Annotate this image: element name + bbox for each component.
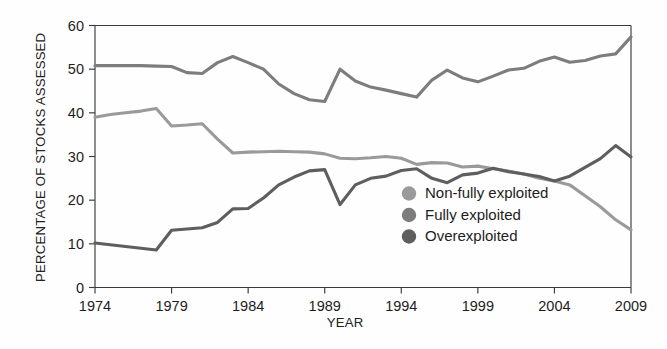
legend-label: Fully exploited xyxy=(425,206,521,223)
x-tick-label: 1999 xyxy=(462,298,494,314)
y-tick-label: 60 xyxy=(68,18,84,34)
y-axis-title-text: PERCENTAGE OF STOCKS ASSESSED xyxy=(33,33,48,282)
line-chart-canvas: PERCENTAGE OF STOCKS ASSESSED YEAR 01020… xyxy=(0,0,667,349)
y-axis-tick-labels: 0102030405060 xyxy=(68,18,84,296)
legend-marker xyxy=(402,186,416,200)
x-axis-title: YEAR xyxy=(327,315,364,330)
axis-lines xyxy=(95,26,631,288)
series-line-non-fully-exploited xyxy=(95,108,631,229)
legend-marker xyxy=(402,229,416,243)
legend-label: Overexploited xyxy=(425,227,518,244)
x-tick-label: 2009 xyxy=(615,298,647,314)
chart-figure: PERCENTAGE OF STOCKS ASSESSED YEAR 01020… xyxy=(0,0,667,349)
y-axis-title: PERCENTAGE OF STOCKS ASSESSED xyxy=(33,33,48,282)
x-tick-label: 1979 xyxy=(155,298,187,314)
x-axis-tick-labels: 19741979198419891994199920042009 xyxy=(79,298,647,314)
y-tick-label: 10 xyxy=(68,236,84,252)
y-tick-label: 50 xyxy=(68,61,84,77)
x-tick-label: 1974 xyxy=(79,298,111,314)
x-tick-label: 1994 xyxy=(385,298,417,314)
x-tick-label: 2004 xyxy=(538,298,570,314)
data-series-group xyxy=(95,37,631,250)
chart-legend: Non-fully exploitedFully exploitedOverex… xyxy=(402,184,549,244)
series-line-overexploited xyxy=(95,146,631,250)
y-tick-label: 30 xyxy=(68,149,84,165)
legend-marker xyxy=(402,208,416,222)
series-line-fully-exploited xyxy=(95,37,631,102)
x-tick-label: 1984 xyxy=(232,298,264,314)
x-axis-title-text: YEAR xyxy=(327,315,364,330)
y-tick-label: 20 xyxy=(68,192,84,208)
x-tick-label: 1989 xyxy=(309,298,341,314)
y-tick-label: 0 xyxy=(76,280,84,296)
legend-label: Non-fully exploited xyxy=(425,184,548,201)
y-tick-label: 40 xyxy=(68,105,84,121)
